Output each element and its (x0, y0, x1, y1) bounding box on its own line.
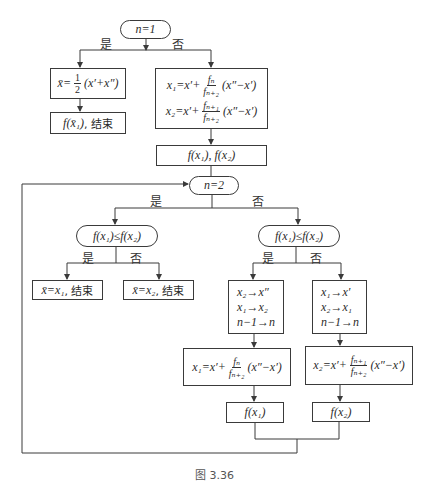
init-x2-formula: x₂=x′+ fₙ₊₁ fₙ₊₂ (x″−x′) (166, 99, 258, 125)
fraction-denominator: fₙ₊₂ (351, 366, 367, 377)
end-box-midpoint: f(x̄₁) , 结束 (50, 112, 126, 134)
eval-box-both: f(x₁), f(x₂) (156, 145, 267, 166)
yes-label: 是 (82, 249, 94, 266)
update-box-left: x₂→x″ x₁→x₂ n−1→n (228, 280, 284, 334)
fraction: fₙ₊₁ fₙ₊₂ (350, 354, 368, 377)
formula-box-x1: x₁=x′+ fₙ fₙ₊₂ (x″−x′) (183, 348, 291, 386)
formula-rhs: (x″−x′) (370, 358, 404, 373)
fraction-denominator: fₙ₊₂ (203, 86, 219, 97)
decision-label: f(x₁)≤f(x₂) (275, 229, 323, 244)
eval-box-x2: f(x₂) (312, 402, 370, 422)
fraction-numerator: 1 (74, 72, 81, 84)
result-expr: x̄=x₂ (133, 283, 156, 298)
eval-label: f(x₁), f(x₂) (188, 148, 236, 163)
start-decision-n-equals-1: n=1 (120, 20, 171, 39)
fraction-denominator: fₙ₊₂ (229, 368, 245, 379)
update-line: x₁→x′ (321, 285, 350, 300)
formula-lhs: x₂=x′+ (166, 104, 200, 119)
result-suffix: , 结束 (64, 282, 93, 298)
fraction-numerator: fₙ₊₁ (202, 100, 220, 112)
loop-decision-n-equals-2: n=2 (189, 176, 239, 195)
result-suffix: , 结束 (155, 282, 184, 298)
formula-rhs: (x″−x′) (247, 360, 281, 375)
eval-label: f(x₁) (245, 405, 266, 420)
no-label: 否 (130, 249, 142, 266)
result-box-x2: x̄=x₂ , 结束 (123, 280, 194, 300)
fraction: 1 2 (74, 72, 81, 95)
fraction-denominator: fₙ₊₂ (203, 112, 219, 123)
result-expr: x̄=x₁ (42, 283, 65, 298)
update-line: n−1→n (321, 315, 359, 330)
init-x1-formula: x₁=x′+ fₙ fₙ₊₂ (x″−x′) (167, 73, 257, 99)
yes-label: 是 (100, 35, 112, 52)
update-line: n−1→n (237, 315, 275, 330)
fraction-numerator: fₙ₊₁ (350, 354, 368, 366)
update-line: x₂→x₁ (321, 300, 352, 315)
update-line: x₂→x″ (237, 285, 269, 300)
init-points-box: x₁=x′+ fₙ fₙ₊₂ (x″−x′) x₂=x′+ fₙ₊₁ fₙ₊₂ … (155, 68, 268, 129)
eval-label: f(x₂) (331, 405, 352, 420)
end-suffix: , 结束 (84, 115, 113, 131)
iter-compare-decision: f(x₁)≤f(x₂) (258, 225, 340, 247)
midpoint-box: x̄= 1 2 (x′+x″) (50, 68, 126, 99)
yes-label: 是 (262, 249, 274, 266)
figure-caption: 图 3.36 (195, 466, 234, 482)
fraction: fₙ₊₁ fₙ₊₂ (202, 100, 220, 123)
fraction-numerator: fₙ (207, 74, 216, 86)
formula-rhs: (x″−x′) (222, 78, 256, 93)
yes-label: 是 (150, 192, 162, 209)
decision-label: n=1 (135, 22, 155, 37)
eval-box-x1: f(x₁) (226, 402, 284, 423)
formula-rhs: (x″−x′) (223, 104, 257, 119)
update-box-right: x₁→x′ x₂→x₁ n−1→n (312, 280, 367, 334)
result-box-x1: x̄=x₁ , 结束 (32, 280, 103, 300)
no-label: 否 (310, 249, 322, 266)
midpoint-rhs: (x′+x″) (84, 76, 118, 91)
fraction-denominator: 2 (75, 84, 80, 95)
formula-box-x2: x₂=x′+ fₙ₊₁ fₙ₊₂ (x″−x′) (305, 346, 413, 385)
fraction: fₙ fₙ₊₂ (203, 74, 219, 97)
final-compare-decision: f(x₁)≤f(x₂) (76, 225, 158, 247)
midpoint-lhs: x̄= (58, 76, 71, 91)
no-label: 否 (252, 192, 264, 209)
update-line: x₁→x₂ (237, 300, 268, 315)
decision-label: f(x₁)≤f(x₂) (93, 229, 141, 244)
formula-lhs: x₁=x′+ (167, 78, 201, 93)
formula-lhs: x₂=x′+ (313, 358, 347, 373)
fraction: fₙ fₙ₊₂ (229, 356, 245, 379)
end-expr: f(x̄₁) (63, 116, 84, 131)
formula-lhs: x₁=x′+ (192, 360, 226, 375)
no-label: 否 (172, 35, 184, 52)
fraction-numerator: fₙ (232, 356, 241, 368)
decision-label: n=2 (204, 178, 224, 193)
